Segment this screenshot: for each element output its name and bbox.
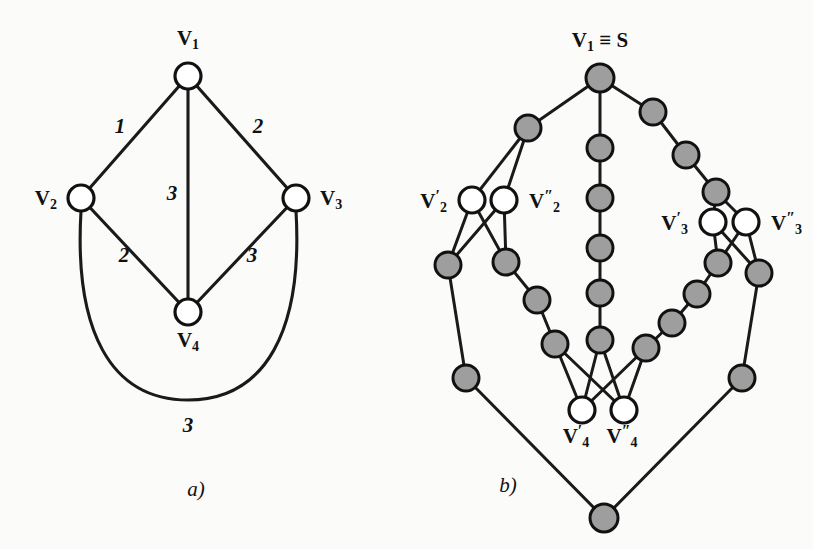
node-g_c4[interactable] bbox=[587, 280, 613, 306]
node-g_l6[interactable] bbox=[453, 365, 479, 391]
edge-v1-v3 bbox=[188, 76, 296, 198]
figure-container: 123233 V1V2V3V4 V1 ≡ SV′2V″2V′3V″3V′4V″4… bbox=[0, 0, 813, 549]
node-g_r7[interactable] bbox=[659, 310, 685, 336]
node-g_l4[interactable] bbox=[524, 287, 550, 313]
node-v3pp[interactable] bbox=[733, 209, 759, 235]
label-v3pp: V″3 bbox=[771, 209, 802, 237]
node-g_l2[interactable] bbox=[435, 252, 461, 278]
label-v2p: V′2 bbox=[420, 187, 447, 215]
node-v4[interactable] bbox=[175, 299, 201, 325]
node-g_r8[interactable] bbox=[633, 335, 659, 361]
node-g_l5[interactable] bbox=[542, 331, 568, 357]
node-g_l1[interactable] bbox=[515, 115, 541, 141]
node-g_r3[interactable] bbox=[703, 179, 729, 205]
caption-panel-a: a) bbox=[187, 477, 205, 501]
node-v3p[interactable] bbox=[700, 209, 726, 235]
node-g_c5[interactable] bbox=[587, 327, 613, 353]
node-v2p[interactable] bbox=[459, 187, 485, 213]
node-g_r4[interactable] bbox=[705, 250, 731, 276]
edge-v1-v2 bbox=[81, 76, 188, 198]
edge-weight-v1-v4: 3 bbox=[166, 181, 178, 205]
edge-weight-v1-v2: 1 bbox=[115, 114, 126, 138]
edge-g_l2-g_l6 bbox=[448, 265, 466, 378]
node-v2pp[interactable] bbox=[491, 187, 517, 213]
panel-b-nodes bbox=[435, 64, 772, 532]
node-g_r2[interactable] bbox=[673, 142, 699, 168]
node-g_r9[interactable] bbox=[729, 365, 755, 391]
panel-captions: a)b) bbox=[187, 473, 517, 501]
node-v2[interactable] bbox=[68, 185, 94, 211]
node-g_l3[interactable] bbox=[493, 249, 519, 275]
caption-panel-b: b) bbox=[499, 473, 517, 497]
label-v2pp: V″2 bbox=[529, 187, 560, 215]
edge-weight-v2-v4: 2 bbox=[118, 243, 130, 267]
node-g_r5[interactable] bbox=[746, 260, 772, 286]
label-v3: V3 bbox=[320, 186, 342, 212]
node-g_r1[interactable] bbox=[640, 99, 666, 125]
label-v4: V4 bbox=[177, 328, 199, 354]
graph-figure-svg: 123233 V1V2V3V4 V1 ≡ SV′2V″2V′3V″3V′4V″4… bbox=[0, 0, 813, 549]
node-v3[interactable] bbox=[283, 185, 309, 211]
label-v4pp: V″4 bbox=[606, 422, 637, 450]
edge-v3-v4 bbox=[188, 198, 296, 312]
node-v4p[interactable] bbox=[569, 397, 595, 423]
node-g_bot[interactable] bbox=[590, 504, 618, 532]
edge-v2-v4 bbox=[81, 198, 188, 312]
node-g_r6[interactable] bbox=[684, 281, 710, 307]
label-v4p: V′4 bbox=[563, 422, 590, 450]
node-v1[interactable] bbox=[175, 63, 201, 89]
label-v2: V2 bbox=[35, 186, 57, 212]
label-v3p: V′3 bbox=[661, 209, 688, 237]
edge-weight-v2-v3: 3 bbox=[182, 413, 194, 437]
edge-weight-v1-v3: 2 bbox=[252, 114, 264, 138]
edge-g_r5-g_r9 bbox=[742, 273, 759, 378]
node-g_c1[interactable] bbox=[587, 135, 613, 161]
node-s[interactable] bbox=[586, 64, 614, 92]
node-g_c3[interactable] bbox=[587, 235, 613, 261]
label-v1: V1 bbox=[177, 26, 199, 52]
edge-weight-v3-v4: 3 bbox=[246, 243, 258, 267]
node-g_c2[interactable] bbox=[587, 185, 613, 211]
node-v4pp[interactable] bbox=[611, 397, 637, 423]
label-source-node: V1 ≡ S bbox=[572, 28, 628, 54]
